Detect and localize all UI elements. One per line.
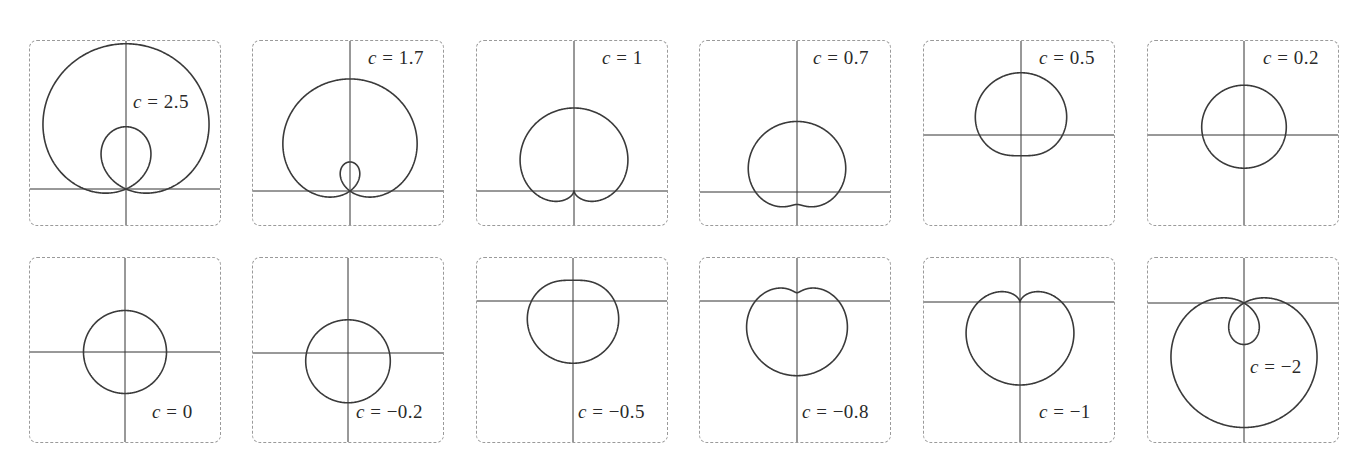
c-value: = −2 <box>1259 356 1302 377</box>
c-value: = −0.5 <box>587 401 645 422</box>
c-value-label: c = −0.5 <box>578 401 645 423</box>
c-value: = 0 <box>161 401 193 422</box>
c-value-label: c = 0 <box>152 401 193 423</box>
c-value-label: c = 2.5 <box>133 91 189 113</box>
c-variable: c <box>813 47 822 68</box>
c-value: = 2.5 <box>142 91 189 112</box>
plot-panel: c = 2.5 <box>29 40 221 226</box>
c-value-label: c = 0.7 <box>813 47 869 69</box>
c-value-label: c = 1 <box>602 47 643 69</box>
c-value: = 1.7 <box>377 47 424 68</box>
polar-plot <box>30 41 221 226</box>
c-value: = −1 <box>1048 401 1091 422</box>
c-value: = 0.7 <box>822 47 869 68</box>
c-variable: c <box>802 401 811 422</box>
plot-panel: c = 1 <box>476 40 668 226</box>
plot-panel: c = 0.2 <box>1147 40 1339 226</box>
c-value: = 0.2 <box>1272 47 1319 68</box>
plot-panel: c = −0.8 <box>699 257 891 443</box>
plot-panel: c = 0.5 <box>923 40 1115 226</box>
c-variable: c <box>1250 356 1259 377</box>
c-value-label: c = 0.5 <box>1039 47 1095 69</box>
c-value-label: c = −0.2 <box>356 401 423 423</box>
c-variable: c <box>1263 47 1272 68</box>
polar-plot <box>1148 258 1339 443</box>
c-variable: c <box>152 401 161 422</box>
c-value: = −0.2 <box>365 401 423 422</box>
plot-panel: c = 0 <box>29 257 221 443</box>
plot-panel: c = −0.2 <box>252 257 444 443</box>
c-value-label: c = −2 <box>1250 356 1302 378</box>
plot-panel: c = 1.7 <box>252 40 444 226</box>
c-value-label: c = 0.2 <box>1263 47 1319 69</box>
c-variable: c <box>578 401 587 422</box>
c-variable: c <box>602 47 611 68</box>
c-value-label: c = 1.7 <box>368 47 424 69</box>
c-value: = −0.8 <box>811 401 869 422</box>
plot-panel: c = 0.7 <box>699 40 891 226</box>
plot-panel: c = −0.5 <box>476 257 668 443</box>
c-variable: c <box>1039 401 1048 422</box>
c-variable: c <box>368 47 377 68</box>
plot-panel: c = −2 <box>1147 257 1339 443</box>
c-value-label: c = −1 <box>1039 401 1091 423</box>
c-value: = 1 <box>611 47 643 68</box>
c-variable: c <box>1039 47 1048 68</box>
c-variable: c <box>356 401 365 422</box>
c-value: = 0.5 <box>1048 47 1095 68</box>
plot-panel: c = −1 <box>923 257 1115 443</box>
c-variable: c <box>133 91 142 112</box>
c-value-label: c = −0.8 <box>802 401 869 423</box>
